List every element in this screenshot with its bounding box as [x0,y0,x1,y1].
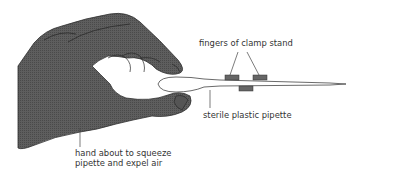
clamp-finger-top-left [225,75,239,80]
label-hand-line1: hand about to squeeze [75,148,171,158]
pipette-diagram [0,0,405,179]
leader-clamp-left [230,52,238,75]
label-hand-line2: pipette and expel air [75,158,171,168]
label-sterile-pipette: sterile plastic pipette [203,110,292,120]
clamp-finger-top-right [253,75,267,80]
label-hand: hand about to squeeze pipette and expel … [75,148,171,168]
label-clamp-fingers: fingers of clamp stand [199,38,293,48]
leader-clamp-right [247,52,259,75]
clamp-finger-bottom [239,86,253,91]
